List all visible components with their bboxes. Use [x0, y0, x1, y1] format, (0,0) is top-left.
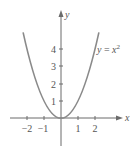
- y-axis-arrow-icon: [59, 10, 64, 17]
- y-tick-label-4: 4: [51, 44, 56, 55]
- x-axis-label: x: [124, 112, 130, 123]
- y-tick-label-2: 2: [51, 79, 56, 90]
- x-tick-label-2: 2: [93, 123, 98, 134]
- y-axis-label: y: [64, 9, 70, 20]
- x-tick-label-minus-1: −1: [38, 123, 49, 134]
- x-axis-arrow-icon: [116, 116, 123, 121]
- y-tick-label-1: 1: [51, 96, 56, 107]
- y-tick-label-3: 3: [51, 61, 56, 72]
- x-tick-label-minus-2: −2: [22, 123, 33, 134]
- curve-label-exponent: 2: [117, 43, 121, 51]
- curve-equation-label: y = x2: [96, 43, 121, 55]
- curve-label-equals: =: [101, 44, 112, 55]
- x-tick-label-1: 1: [76, 123, 81, 134]
- parabola-chart: −2 −1 1 2 1 2 3 4 x y y = x2: [0, 0, 136, 156]
- svg-text:y = x2: y = x2: [96, 43, 121, 55]
